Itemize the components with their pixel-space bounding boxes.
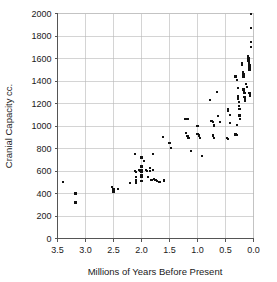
data-point (244, 100, 246, 102)
data-point (140, 156, 142, 158)
x-tick-label: 1.5 (163, 245, 176, 255)
data-point (184, 118, 186, 120)
data-point (162, 136, 164, 138)
data-point (188, 137, 190, 139)
x-tick-label: 2.5 (107, 245, 120, 255)
y-tick-label: 800 (36, 144, 51, 154)
chart-figure: 0200400600800100012001400160018002000 3.… (0, 0, 277, 282)
data-point (238, 115, 240, 117)
data-point (242, 71, 244, 73)
data-point (117, 188, 119, 190)
horizontal-gridlines (58, 14, 254, 217)
data-point (237, 95, 239, 97)
data-point (237, 87, 239, 89)
y-tick-label: 1000 (31, 121, 51, 131)
data-point (150, 179, 152, 181)
data-point (209, 99, 211, 101)
data-point (234, 75, 236, 77)
data-point (217, 115, 219, 117)
y-tick-label: 600 (36, 166, 51, 176)
data-point (237, 98, 239, 100)
data-point (152, 153, 154, 155)
data-point (149, 167, 151, 169)
data-point (243, 92, 245, 94)
data-point (186, 118, 188, 120)
data-point (246, 86, 248, 88)
data-point (248, 66, 250, 68)
data-point (249, 95, 251, 97)
data-point (212, 121, 214, 123)
data-point (250, 41, 252, 43)
data-point (242, 73, 244, 75)
data-point (216, 91, 218, 93)
data-point (140, 176, 142, 178)
data-point (238, 101, 240, 103)
data-point (135, 182, 137, 184)
y-tick-labels: 0200400600800100012001400160018002000 (31, 9, 51, 244)
data-point (149, 170, 151, 172)
data-point (135, 176, 137, 178)
scatter-plot: 0200400600800100012001400160018002000 3.… (0, 0, 277, 282)
data-point (74, 192, 76, 194)
data-point (219, 121, 221, 123)
data-point (243, 96, 245, 98)
data-point (236, 79, 238, 81)
x-tick-label: 0.0 (247, 245, 260, 255)
data-point (163, 179, 165, 181)
y-axis-title: Cranial Capacity cc. (3, 84, 14, 168)
data-point (143, 160, 145, 162)
data-point (245, 83, 247, 85)
data-point (250, 13, 252, 15)
data-point (170, 147, 172, 149)
data-point (229, 114, 231, 116)
data-point (112, 191, 114, 193)
x-tick-label: 3.0 (79, 245, 92, 255)
y-tick-label: 1800 (31, 31, 51, 41)
x-tick-label: 1.0 (191, 245, 204, 255)
data-point (112, 188, 114, 190)
data-point (229, 122, 231, 124)
data-point (248, 69, 250, 71)
data-point (227, 138, 229, 140)
x-tick-label: 3.5 (51, 245, 64, 255)
data-point (62, 181, 64, 183)
y-tick-label: 2000 (31, 9, 51, 19)
data-point (152, 169, 154, 171)
data-point (140, 165, 142, 167)
data-point (74, 201, 76, 203)
data-point (227, 110, 229, 112)
data-point (199, 137, 201, 139)
data-point (241, 64, 243, 66)
data-point (190, 150, 192, 152)
data-point (250, 46, 252, 48)
x-tick-label: 0.5 (219, 245, 232, 255)
data-point (156, 180, 158, 182)
data-point (111, 186, 113, 188)
data-point (185, 132, 187, 134)
data-point (238, 108, 240, 110)
data-point (213, 137, 215, 139)
data-point (129, 182, 131, 184)
data-point (236, 134, 238, 136)
data-point (134, 153, 136, 155)
data-point (213, 125, 215, 127)
data-point (140, 180, 142, 182)
x-axis-title: Millions of Years Before Present (88, 266, 223, 277)
data-point (196, 125, 198, 127)
y-tick-label: 1600 (31, 54, 51, 64)
data-point (168, 142, 170, 144)
data-point (247, 55, 249, 57)
data-point (201, 155, 203, 157)
data-point (227, 108, 229, 110)
y-tick-label: 200 (36, 211, 51, 221)
data-point (146, 170, 148, 172)
x-tick-label: 2.0 (135, 245, 148, 255)
data-point (140, 170, 142, 172)
data-point (250, 27, 252, 29)
y-tick-label: 1400 (31, 76, 51, 86)
data-point (241, 62, 243, 64)
data-point (147, 176, 149, 178)
y-tick-label: 0 (46, 234, 51, 244)
data-point (158, 181, 160, 183)
data-point (248, 64, 250, 66)
